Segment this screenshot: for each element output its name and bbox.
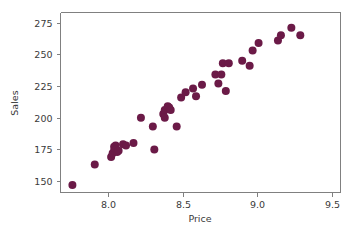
x-axis-title: Price bbox=[188, 213, 211, 224]
y-tick-label: 175 bbox=[34, 144, 52, 155]
chart-canvas: 8.08.59.09.5 150175200225250275 Price Sa… bbox=[0, 0, 360, 236]
data-point bbox=[173, 123, 181, 131]
y-axis-title: Sales bbox=[9, 90, 20, 115]
data-point bbox=[150, 145, 158, 153]
x-tick-label: 8.0 bbox=[101, 199, 116, 210]
data-point bbox=[122, 142, 130, 150]
y-tick-label: 150 bbox=[34, 176, 52, 187]
data-point bbox=[287, 24, 295, 32]
y-tick-label: 250 bbox=[34, 49, 52, 60]
data-point bbox=[161, 114, 169, 122]
data-point bbox=[277, 31, 285, 39]
data-point bbox=[68, 181, 76, 189]
y-tick-label: 200 bbox=[34, 113, 52, 124]
data-point bbox=[198, 81, 206, 89]
x-tick-label: 9.5 bbox=[325, 199, 340, 210]
data-point bbox=[182, 88, 190, 96]
data-point bbox=[167, 106, 175, 114]
data-point bbox=[255, 39, 263, 47]
y-tick-label: 275 bbox=[34, 18, 52, 29]
data-point bbox=[149, 123, 157, 131]
y-tick-label: 225 bbox=[34, 81, 52, 92]
scatter-plot-figure: 8.08.59.09.5 150175200225250275 Price Sa… bbox=[0, 0, 360, 236]
x-tick-label: 8.5 bbox=[176, 199, 191, 210]
data-point bbox=[222, 87, 230, 95]
data-point bbox=[238, 57, 246, 65]
data-point bbox=[214, 79, 222, 87]
data-point bbox=[192, 92, 200, 100]
data-point bbox=[217, 71, 225, 79]
data-point bbox=[91, 161, 99, 169]
data-point bbox=[249, 47, 257, 55]
data-point bbox=[246, 62, 254, 70]
data-point bbox=[129, 139, 137, 147]
x-tick-label: 9.0 bbox=[250, 199, 265, 210]
data-point bbox=[296, 31, 304, 39]
data-point bbox=[189, 85, 197, 93]
data-point bbox=[225, 59, 233, 67]
data-point bbox=[137, 114, 145, 122]
